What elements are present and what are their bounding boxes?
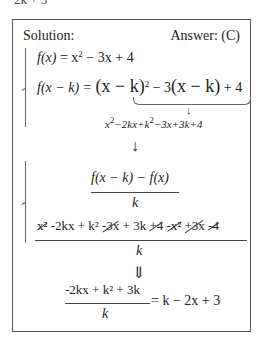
difference-quotient-denominator: k — [132, 195, 138, 211]
solution-box: Solution: Answer: (C) f(x) = x2 − 3x + 4… — [12, 19, 251, 332]
equation-fx: f(x) = x2 − 3x + 4 — [37, 50, 134, 66]
struck-term: -3x — [102, 218, 119, 234]
difference-quotient-numerator: f(x − k) − f(x) — [91, 170, 169, 186]
answer-label: Answer: (C) — [170, 28, 240, 44]
solution-label: Solution: — [23, 28, 74, 44]
struck-term: -4 — [208, 218, 219, 234]
result-numerator: -2kx + k² + 3k — [65, 282, 140, 298]
fraction-bar — [91, 192, 179, 193]
down-arrow-small-icon: ↓ — [186, 104, 192, 116]
expanded-numerator: x² -2kx + k² -3x + 3k +4 -x² +3x -4 — [37, 218, 219, 234]
struck-term: +4 — [149, 218, 163, 234]
struck-term: x² — [37, 218, 47, 234]
result-denominator: k — [102, 306, 108, 322]
fraction-bar — [35, 240, 247, 241]
fraction-bar — [65, 303, 150, 304]
underbrace-icon — [133, 97, 251, 105]
expansion-expression: x2−2kx+k2−3x+3k+4 — [105, 118, 202, 130]
double-down-arrow-icon: ⇓ — [132, 263, 145, 282]
cutoff-text: 2k + 3 — [14, 0, 47, 8]
struck-term: +3x — [184, 218, 204, 234]
left-brace-icon — [25, 48, 33, 127]
expanded-denominator: k — [136, 243, 142, 259]
result-rhs: = k − 2x + 3 — [151, 293, 220, 309]
down-arrow-icon: ↓ — [131, 137, 139, 155]
left-brace-icon — [25, 161, 33, 243]
struck-term: -x² — [167, 218, 182, 234]
equation-fx-minus-k: f(x − k) = (x − k)2 − 3(x − k) + 4 — [37, 76, 242, 97]
